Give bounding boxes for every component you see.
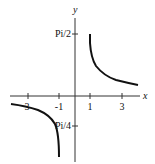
y-axis-label: y bbox=[72, 4, 78, 15]
left-branch-curve bbox=[11, 104, 59, 157]
right-branch-curve bbox=[90, 34, 138, 85]
x-tick-label: -1 bbox=[55, 101, 63, 112]
x-tick-label: 1 bbox=[88, 101, 93, 112]
x-tick-label: 3 bbox=[120, 101, 125, 112]
arccsc-plot: 3 -1 1 3 Pi/2 Pi/4 x y bbox=[0, 0, 155, 164]
y-tick-label: Pi/2 bbox=[55, 28, 71, 39]
x-axis-label: x bbox=[142, 90, 148, 101]
